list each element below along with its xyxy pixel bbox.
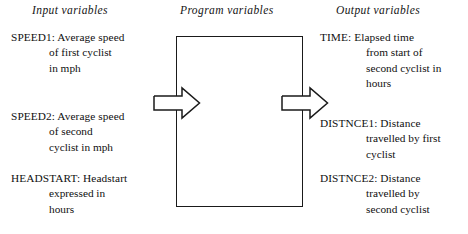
input-variable-speed1-line-2: of first cyclist	[11, 45, 125, 60]
input-variable-headstart: HEADSTART: Headstart expressed in hours	[11, 171, 127, 217]
output-variable-distnce2-line-1: DISTNCE2: Distance	[320, 171, 430, 186]
input-variable-speed2-line-2: of second	[11, 124, 125, 139]
output-variable-time-line-1: TIME: Elapsed time	[320, 30, 441, 45]
output-variable-distnce2-line-2: travelled by	[320, 186, 430, 201]
output-variable-distnce1-line-1: DISTNCE1: Distance	[320, 116, 441, 131]
input-variable-speed2-line-1: SPEED2: Average speed	[11, 109, 125, 124]
diagram-canvas: Input variables Program variables Output…	[0, 0, 468, 234]
input-variable-speed1-line-1: SPEED1: Average speed	[11, 30, 125, 45]
input-variable-speed1-line-3: in mph	[11, 61, 125, 76]
output-variable-distnce2: DISTNCE2: Distance travelled by second c…	[320, 171, 430, 217]
output-variable-time: TIME: Elapsed time from start of second …	[320, 30, 441, 92]
output-variable-time-line-2: from start of	[320, 45, 441, 60]
input-variable-speed2-line-3: cyclist in mph	[11, 140, 125, 155]
input-variable-headstart-line-1: HEADSTART: Headstart	[11, 171, 127, 186]
output-variable-distnce1: DISTNCE1: Distance travelled by first cy…	[320, 116, 441, 162]
column-header-output-variables: Output variables	[336, 4, 420, 16]
column-header-program-variables: Program variables	[180, 4, 274, 16]
program-variables-box	[176, 36, 303, 207]
output-variable-distnce2-line-3: second cyclist	[320, 202, 430, 217]
output-variable-time-line-4: hours	[320, 76, 441, 91]
output-variable-distnce1-line-3: cyclist	[320, 147, 441, 162]
input-arrow-icon	[153, 86, 201, 120]
input-variable-headstart-line-3: hours	[11, 202, 127, 217]
input-variable-speed1: SPEED1: Average speed of first cyclist i…	[11, 30, 125, 76]
output-variable-time-line-3: second cyclist in	[320, 61, 441, 76]
input-variable-headstart-line-2: expressed in	[11, 186, 127, 201]
output-variable-distnce1-line-2: travelled by first	[320, 131, 441, 146]
column-header-input-variables: Input variables	[32, 4, 108, 16]
input-variable-speed2: SPEED2: Average speed of second cyclist …	[11, 109, 125, 155]
